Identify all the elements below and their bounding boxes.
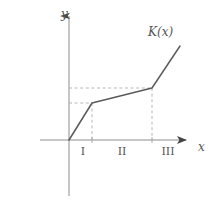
function-graph-figure: y x K(x) I II III bbox=[0, 0, 220, 207]
curve-label-kx: K(x) bbox=[148, 26, 173, 38]
region-label-ii: II bbox=[118, 146, 127, 157]
plot-canvas bbox=[0, 0, 220, 207]
x-axis-label: x bbox=[198, 141, 205, 153]
function-curve bbox=[69, 46, 180, 140]
region-label-i: I bbox=[81, 146, 85, 157]
y-axis-label: y bbox=[61, 8, 68, 20]
region-label-iii: III bbox=[161, 146, 174, 157]
